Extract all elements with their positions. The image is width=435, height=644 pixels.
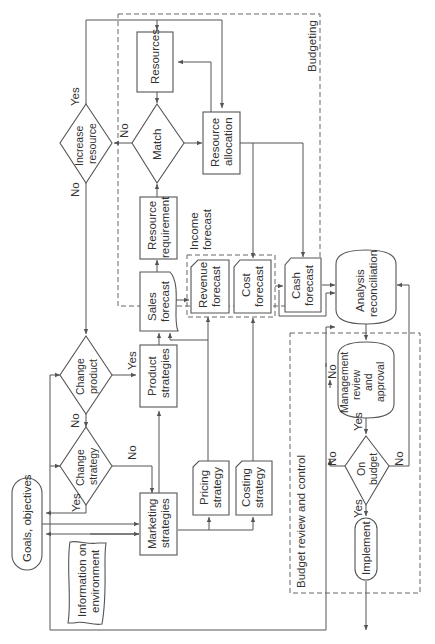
node-marketing-strategies: Marketing strategies (140, 493, 177, 555)
svg-text:environment: environment (89, 549, 101, 613)
svg-text:product: product (87, 359, 99, 394)
budgeting-flowchart: Budgeting Income forecast Budget review … (0, 0, 435, 644)
node-revenue-forecast: Revenue forecast (191, 260, 229, 313)
label-management-yes: Yes (352, 412, 364, 431)
svg-text:Revenue: Revenue (197, 262, 209, 308)
svg-text:approval: approval (374, 362, 386, 402)
node-match: Match (132, 104, 184, 183)
node-on-budget: On budget (345, 436, 389, 505)
node-management-review: Management review and approval (338, 342, 394, 418)
svg-text:Goals, objectives: Goals, objectives (21, 474, 33, 562)
svg-text:forecast: forecast (159, 280, 171, 322)
svg-text:resource: resource (86, 123, 98, 164)
svg-text:Change: Change (74, 358, 86, 395)
svg-text:strategy: strategy (87, 447, 99, 485)
svg-text:Resource: Resource (146, 201, 158, 250)
svg-text:strategy: strategy (253, 467, 265, 508)
svg-text:Sales: Sales (146, 292, 158, 321)
svg-text:forecast: forecast (303, 264, 315, 306)
label-onbudget-yes: Yes (352, 499, 364, 518)
svg-text:Marketing: Marketing (146, 499, 158, 550)
node-resource-allocation: Resource allocation (203, 112, 240, 174)
node-analysis-reconciliation: Analysis reconciliation (336, 250, 396, 324)
node-implement: Implement (355, 518, 377, 580)
label-change-product-no: No (69, 413, 81, 428)
node-goals-objectives: Goals, objectives (12, 474, 42, 570)
svg-text:budget: budget (367, 453, 379, 485)
svg-text:Costing: Costing (240, 468, 252, 507)
svg-text:Increase: Increase (73, 126, 85, 166)
node-change-strategy: Change strategy (60, 427, 112, 505)
income-forecast-label-2: forecast (201, 208, 213, 250)
svg-text:Management: Management (338, 352, 350, 413)
svg-text:requirement: requirement (159, 196, 171, 258)
svg-text:allocation: allocation (222, 117, 234, 166)
label-change-strategy-no: No (126, 445, 138, 460)
label-onbudget-no-right: No (393, 451, 405, 466)
node-cost-forecast: Cost forecast (234, 260, 271, 313)
svg-text:and: and (362, 373, 374, 391)
svg-text:review: review (350, 369, 362, 400)
svg-text:strategies: strategies (159, 498, 171, 548)
budgeting-label: Budgeting (306, 20, 318, 72)
svg-text:forecast: forecast (210, 265, 222, 307)
svg-text:strategies: strategies (159, 348, 171, 398)
label-increase-yes: Yes (69, 87, 81, 106)
node-sales-forecast: Sales forecast (140, 272, 178, 331)
label-change-strategy-yes: Yes (70, 493, 82, 512)
svg-text:Change: Change (74, 449, 86, 486)
svg-text:Product: Product (146, 356, 158, 396)
label-change-product-yes: Yes (126, 351, 138, 370)
node-resource-requirement: Resource requirement (140, 196, 177, 259)
node-costing-strategy: Costing strategy (236, 461, 272, 515)
svg-text:Resource: Resource (209, 118, 221, 167)
node-resources: Resources (137, 29, 173, 92)
svg-text:Cash: Cash (290, 272, 302, 299)
node-product-strategies: Product strategies (140, 345, 177, 407)
label-increase-no: No (69, 182, 81, 197)
svg-text:Resources: Resources (149, 29, 161, 84)
svg-text:reconciliation: reconciliation (367, 250, 379, 317)
svg-text:strategy: strategy (211, 467, 223, 508)
node-cash-forecast: Cash forecast (285, 258, 321, 312)
node-information-environment: Information on environment (68, 542, 106, 625)
svg-text:Cost: Cost (240, 273, 252, 297)
label-onbudget-no-left: No (326, 451, 338, 466)
svg-text:Match: Match (151, 129, 163, 160)
label-management-no: No (326, 364, 338, 379)
svg-text:Implement: Implement (360, 521, 372, 575)
node-change-product: Change product (60, 336, 112, 414)
svg-text:On: On (355, 462, 367, 476)
budget-review-label: Budget review and control (295, 455, 307, 588)
income-forecast-label-1: Income (188, 212, 200, 250)
node-pricing-strategy: Pricing strategy (193, 461, 229, 515)
svg-text:Pricing: Pricing (198, 470, 210, 505)
svg-text:forecast: forecast (253, 265, 265, 307)
svg-text:Analysis: Analysis (354, 269, 366, 312)
svg-text:Information on: Information on (76, 543, 88, 617)
node-increase-resource: Increase resource (60, 104, 112, 183)
label-match-no: No (118, 123, 130, 138)
